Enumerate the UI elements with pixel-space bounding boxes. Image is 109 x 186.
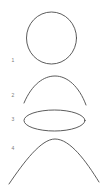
curve-label-2: 2: [12, 92, 15, 98]
figure-canvas: 1 2 3 4: [0, 0, 109, 186]
curve-label-1: 1: [12, 57, 15, 63]
curve-label-4: 4: [12, 145, 15, 151]
conic-figure: 1 2 3 4: [0, 0, 109, 186]
curve-3-ellipse: [24, 110, 85, 131]
curve-4-parabola-wide: [9, 139, 99, 184]
curve-2-parabola: [24, 76, 86, 105]
curve-1-circle: [27, 12, 77, 64]
curve-label-3: 3: [12, 116, 15, 122]
